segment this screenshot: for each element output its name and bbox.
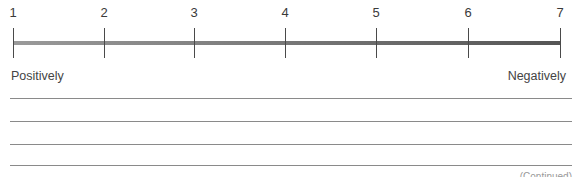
tick-mark-5[interactable] <box>376 28 377 58</box>
tick-mark-2[interactable] <box>104 28 105 58</box>
anchor-label-positively: Positively <box>11 69 64 83</box>
rating-scale: 1 2 3 4 5 6 7 Positively Negatively <box>0 0 576 90</box>
writing-line-4[interactable] <box>10 165 572 166</box>
tick-label-6: 6 <box>464 6 471 20</box>
tick-mark-3[interactable] <box>194 28 195 58</box>
tick-mark-1[interactable] <box>13 28 14 58</box>
tick-label-1: 1 <box>9 6 16 20</box>
writing-line-3[interactable] <box>10 144 572 145</box>
scale-bar <box>13 41 560 45</box>
anchor-label-negatively: Negatively <box>508 69 566 83</box>
continued-footer: (Continued) <box>520 172 572 177</box>
writing-line-1[interactable] <box>10 98 572 99</box>
tick-label-3: 3 <box>190 6 197 20</box>
tick-label-4: 4 <box>281 6 288 20</box>
tick-mark-4[interactable] <box>285 28 286 58</box>
tick-label-2: 2 <box>100 6 107 20</box>
tick-label-5: 5 <box>372 6 379 20</box>
tick-mark-7[interactable] <box>560 28 561 58</box>
tick-mark-6[interactable] <box>468 28 469 58</box>
writing-line-2[interactable] <box>10 121 572 122</box>
tick-label-7: 7 <box>556 6 563 20</box>
